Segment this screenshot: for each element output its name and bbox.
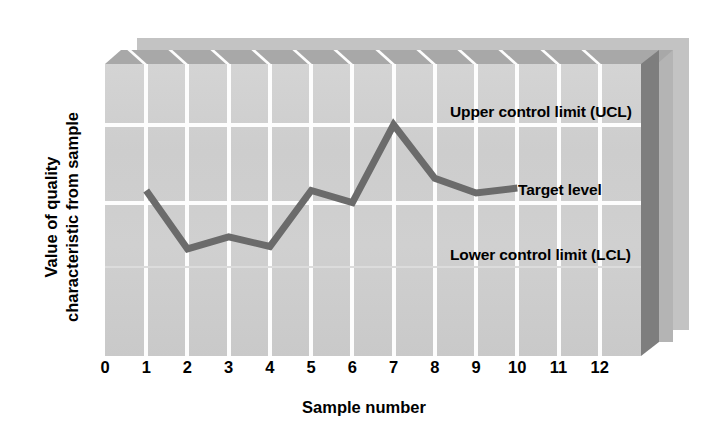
control-chart-figure: Upper control limit (UCL) Target level L… [0, 0, 728, 438]
series-polyline [146, 125, 517, 249]
chart-plot-area: Upper control limit (UCL) Target level L… [105, 64, 641, 356]
x-tick-label: 8 [420, 358, 450, 377]
y-axis-title-line2: characteristic from sample [62, 67, 83, 367]
chart-right-face [641, 50, 659, 356]
x-tick-label: 3 [214, 358, 244, 377]
x-tick-label: 5 [296, 358, 326, 377]
x-axis-title: Sample number [0, 398, 728, 417]
x-tick-label: 0 [90, 358, 120, 377]
y-axis-title: Value of quality characteristic from sam… [41, 67, 83, 367]
x-tick-label: 4 [255, 358, 285, 377]
x-tick-label: 11 [544, 358, 574, 377]
y-axis-title-line1: Value of quality [41, 67, 62, 367]
target-level-label: Target level [518, 181, 602, 199]
lower-control-limit-label: Lower control limit (LCL) [450, 246, 631, 264]
x-tick-label: 12 [585, 358, 615, 377]
upper-control-limit-label: Upper control limit (UCL) [450, 103, 632, 121]
x-tick-label: 9 [461, 358, 491, 377]
x-tick-label: 2 [172, 358, 202, 377]
x-tick-label: 1 [131, 358, 161, 377]
x-tick-label: 7 [379, 358, 409, 377]
x-tick-label: 10 [502, 358, 532, 377]
x-tick-label: 6 [337, 358, 367, 377]
